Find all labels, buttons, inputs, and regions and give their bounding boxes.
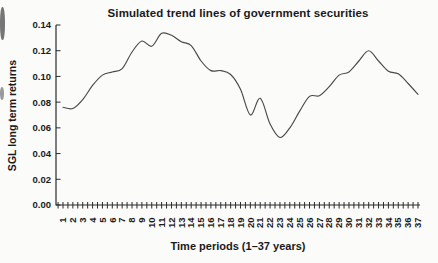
y-tick-label: 0.12 — [33, 45, 52, 56]
y-tick-label: 0.06 — [33, 122, 52, 133]
figure-page: Simulated trend lines of government secu… — [0, 0, 438, 263]
x-axis-title: Time periods (1–37 years) — [56, 240, 420, 252]
scan-artifact — [0, 7, 5, 40]
y-tick-label: 0.02 — [33, 174, 52, 185]
y-tick-label: 0.14 — [33, 19, 52, 30]
trend-line-path — [63, 33, 418, 138]
y-tick-label: 0.10 — [33, 71, 52, 82]
y-tick-label: 0.04 — [33, 148, 52, 159]
y-tick-label: 0.00 — [33, 199, 52, 210]
x-tick-label: 37 — [412, 218, 423, 229]
y-tick-label: 0.08 — [33, 97, 52, 108]
scan-artifact — [0, 87, 4, 100]
x-axis-labels: 1234567891011121314151617181920212223242… — [57, 217, 423, 228]
chart-canvas: 0.140.120.100.080.060.040.020.0012345678… — [0, 0, 438, 263]
